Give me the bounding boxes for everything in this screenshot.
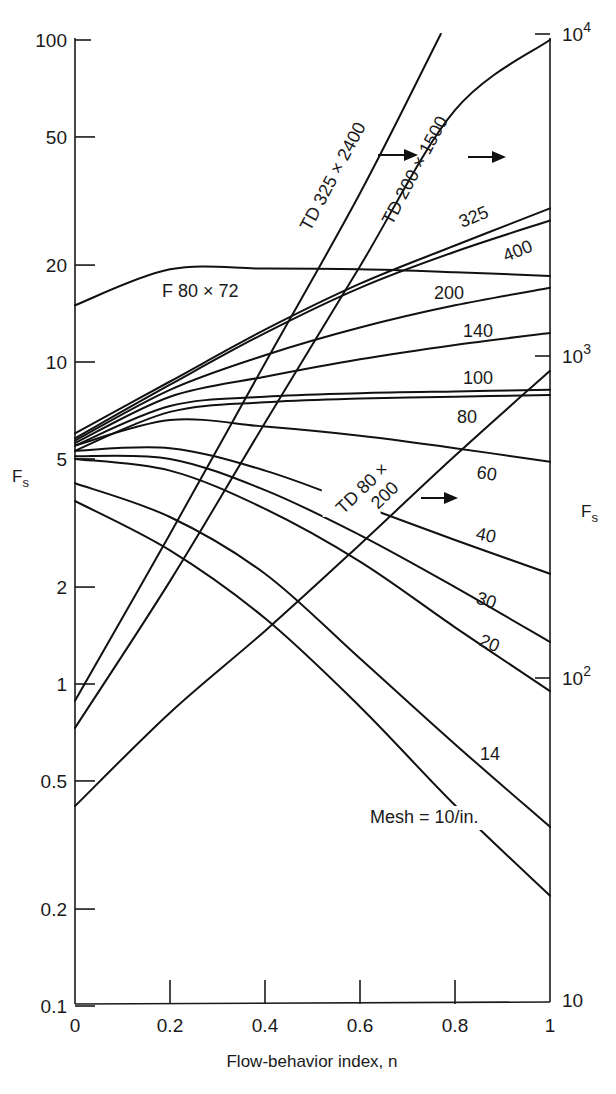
x-axis-title: Flow-behavior index, n: [226, 1052, 397, 1071]
y-tick-label: 0.5: [41, 771, 67, 792]
x-tick-label: 0.8: [442, 1015, 468, 1036]
x-tick-label: 0.4: [252, 1015, 279, 1036]
label-mesh-60: 60: [475, 462, 498, 485]
y-tick-label: 0.1: [41, 996, 67, 1017]
curve-td-325-2400: [75, 34, 441, 701]
y-right-tick-label: 103: [562, 341, 591, 367]
curve-mesh-10-in: [75, 501, 550, 896]
chart-plot: 0.10.20.51251020501001010210310400.20.40…: [0, 0, 616, 1094]
y-tick-label: 50: [46, 127, 67, 148]
y-axis-title-left: Fs: [12, 467, 29, 490]
y-tick-label: 1: [56, 674, 67, 695]
x-axis: [75, 1002, 550, 1004]
arrow-right-icon: [468, 151, 506, 163]
label-mesh-140: 140: [463, 321, 493, 341]
label-mesh-10: Mesh = 10/in.: [370, 807, 479, 827]
curve-80: [75, 395, 550, 451]
y-tick-label: 10: [46, 352, 67, 373]
y-axis-title-right: Fs: [581, 502, 598, 525]
arrow-right-icon: [421, 492, 458, 504]
axis-ticks: 0.10.20.51251020501001010210310400.20.40…: [35, 19, 591, 1036]
label-f-80x72: F 80 × 72: [162, 281, 239, 301]
curve-60: [75, 419, 550, 462]
curve-labels: TD 325 × 2400 TD 200 × 1500 TD 80 × 200 …: [162, 113, 535, 827]
x-tick-label: 0: [70, 1015, 81, 1036]
label-mesh-200: 200: [434, 283, 464, 303]
label-mesh-400: 400: [500, 236, 535, 266]
axes: [75, 38, 550, 1004]
x-tick-label: 1: [545, 1015, 556, 1036]
curve-140: [75, 333, 550, 443]
y-right-tick-label: 102: [562, 663, 591, 689]
y-right-tick-label: 104: [562, 19, 591, 45]
y-tick-label: 0.2: [41, 899, 67, 920]
curve-200: [75, 288, 550, 441]
label-td-325x2400: TD 325 × 2400: [296, 119, 370, 234]
label-td-200x1500: TD 200 × 1500: [378, 113, 452, 228]
y-tick-label: 100: [35, 30, 67, 51]
y-right-tick-label: 10: [562, 990, 583, 1011]
curve-f-80-72: [75, 266, 550, 305]
label-mesh-100: 100: [463, 368, 493, 388]
label-mesh-325: 325: [456, 202, 491, 232]
label-mesh-14: 14: [480, 744, 500, 764]
y-tick-label: 2: [56, 577, 67, 598]
y-tick-label: 20: [46, 255, 67, 276]
label-mesh-40: 40: [474, 523, 498, 547]
label-mesh-20: 20: [477, 630, 503, 656]
x-tick-label: 0.6: [347, 1015, 373, 1036]
x-tick-label: 0.2: [157, 1015, 183, 1036]
y-tick-label: 5: [56, 449, 67, 470]
label-mesh-80: 80: [457, 407, 477, 427]
